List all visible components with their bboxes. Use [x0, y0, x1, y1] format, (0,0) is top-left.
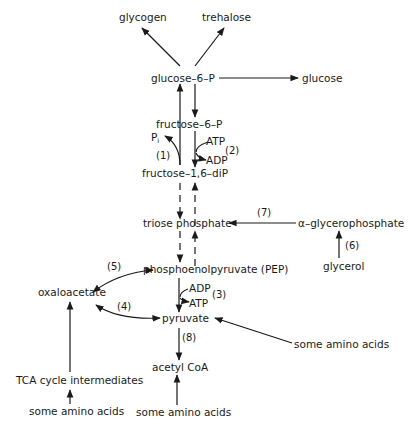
cofactor-adp-3: ADP: [189, 283, 211, 294]
node-glucose-6-p: glucose–6–P: [151, 73, 215, 84]
cofactor-pi: Pi: [151, 132, 159, 145]
reaction-label-1: (1): [156, 151, 170, 161]
cofactor-atp-3: ATP: [189, 298, 208, 309]
atp-output-curve: [180, 298, 189, 302]
node-oxaloacetate: oxaloacetate: [38, 287, 106, 298]
node-alpha-glycerophosphate: α–glycerophosphate: [298, 218, 404, 229]
reaction-label-5: (5): [107, 262, 121, 272]
reaction-label-2: (2): [225, 146, 239, 156]
cofactor-atp-2: ATP: [206, 136, 225, 147]
reaction-label-6: (6): [345, 241, 359, 251]
metabolic-pathway-diagram: glycogen trehalose glucose–6–P glucose f…: [0, 0, 412, 436]
node-glycerol: glycerol: [323, 261, 364, 272]
node-triose-phosphate: triose phosphate: [143, 218, 232, 229]
node-fructose-6-p: fructose–6–P: [156, 119, 222, 130]
node-acetyl-coa: acetyl CoA: [152, 362, 208, 373]
node-some-amino-acids-tca: some amino acids: [29, 406, 124, 417]
node-pep: phosphoenolpyruvate (PEP): [143, 264, 288, 275]
arrow-g6p-glycogen: [142, 28, 180, 66]
reaction-label-3: (3): [212, 290, 226, 300]
cofactor-adp-2: ADP: [206, 155, 228, 166]
node-pyruvate: pyruvate: [162, 313, 209, 324]
adp-input-curve: [180, 289, 188, 297]
reaction-label-4: (4): [117, 302, 131, 312]
arrow-aa-pyruvate: [215, 318, 292, 343]
node-trehalose: trehalose: [202, 12, 251, 23]
node-some-amino-acids-pyruvate: some amino acids: [294, 339, 389, 350]
cofactor-pi-subscript: i: [157, 137, 159, 145]
reaction-label-7: (7): [257, 208, 271, 218]
reaction-label-8: (8): [182, 333, 196, 343]
node-fructose-1-6-dip: fructose–1,6–diP: [142, 168, 228, 179]
node-glucose: glucose: [302, 73, 342, 84]
node-glycogen: glycogen: [119, 12, 167, 23]
node-some-amino-acids-acetyl: some amino acids: [136, 407, 231, 418]
adp-output-curve: [196, 153, 206, 160]
arrow-g6p-trehalose: [195, 28, 224, 66]
node-tca-cycle-intermediates: TCA cycle intermediates: [16, 375, 143, 386]
